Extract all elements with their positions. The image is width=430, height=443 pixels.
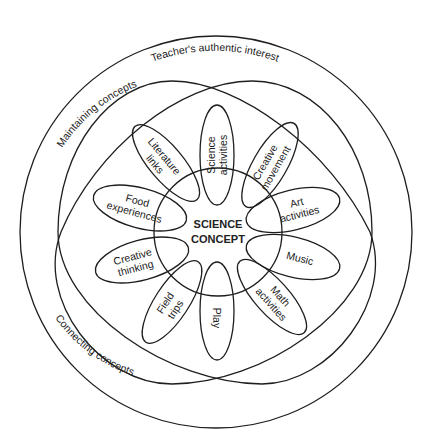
connecting-concepts-label: Connecting concepts [53,312,136,378]
petal-science-activities: Science activities [200,105,234,205]
petal-play: Play [200,262,234,360]
petal-label: activities [217,135,229,175]
petal-label: Play [211,308,223,329]
petal-music: Music [242,226,345,288]
petal-label: Music [285,249,315,267]
center-label-line1: SCIENCE [194,218,243,230]
maintaining-concepts-label: Maintaining concepts [54,77,138,149]
center-label-line2: CONCEPT [191,233,245,245]
petal-food-experiences: Food experiences [88,176,191,239]
science-concept-web-diagram: Teacher's authentic interest Maintaining… [0,0,430,443]
petal-label: Science [205,136,217,174]
petal-art-activities: Art activities [242,179,345,241]
outer-ring-label: Teacher's authentic interest [149,41,281,64]
outer-ring [20,36,412,428]
